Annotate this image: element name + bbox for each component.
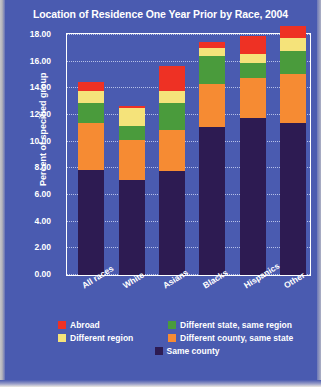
legend-item-different-state-same-region: Different state, same region [168, 320, 314, 330]
legend-row: Abroad Different state, same region [58, 320, 316, 330]
y-tick-label: 2.00 [3, 242, 51, 252]
legend-swatch-abroad [58, 321, 66, 329]
y-tick-label: 6.00 [3, 189, 51, 199]
chart-title: Location of Residence One Year Prior by … [0, 8, 321, 20]
bar-segment-same-county [119, 180, 145, 275]
bar-segment-abroad [78, 82, 104, 91]
bar-segment-different-region [159, 91, 185, 103]
bar-segment-different-state-same-region [280, 51, 306, 74]
bar-segment-different-region [119, 108, 145, 125]
bar-segment-different-county-same-state [199, 84, 225, 127]
bar-segment-same-county [280, 123, 306, 275]
legend-row: Same county [58, 346, 316, 356]
legend-swatch-different-state-same-region [168, 321, 176, 329]
bar-segment-same-county [240, 118, 266, 275]
bar-segment-abroad [199, 42, 225, 49]
bar-segment-abroad [119, 106, 145, 109]
chart-legend: Abroad Different state, same region Diff… [58, 320, 316, 356]
bars-layer [67, 34, 310, 275]
bar-other[interactable] [280, 26, 306, 275]
page-edge-right [317, 0, 321, 387]
y-axis-label: Percent of specified group [38, 72, 48, 186]
bar-hispanics[interactable] [240, 36, 266, 275]
bar-white[interactable] [119, 106, 145, 275]
bar-blacks[interactable] [199, 42, 225, 275]
plot-area: 0.002.004.006.008.0010.0012.0014.0016.00… [66, 33, 311, 276]
legend-label-different-county-same-state: Different county, same state [180, 333, 293, 343]
bar-segment-different-county-same-state [159, 130, 185, 171]
y-tick-label: 4.00 [3, 216, 51, 226]
y-tick-label: 18.00 [3, 29, 51, 39]
y-tick-label: 0.00 [3, 269, 51, 279]
legend-label-abroad: Abroad [70, 320, 100, 330]
legend-label-different-region: Different region [70, 333, 133, 343]
bar-all-races[interactable] [78, 82, 104, 275]
legend-item-same-county: Same county [155, 346, 220, 356]
bar-segment-abroad [240, 36, 266, 53]
legend-item-different-county-same-state: Different county, same state [168, 333, 314, 343]
bar-segment-different-state-same-region [199, 56, 225, 84]
bar-segment-different-state-same-region [240, 63, 266, 78]
bar-segment-different-county-same-state [119, 140, 145, 180]
bar-segment-abroad [159, 66, 185, 91]
bar-asians[interactable] [159, 66, 185, 275]
bar-segment-different-region [240, 54, 266, 63]
y-tick-label: 16.00 [3, 56, 51, 66]
bar-segment-different-state-same-region [119, 126, 145, 141]
legend-label-different-state-same-region: Different state, same region [180, 320, 292, 330]
bar-segment-same-county [199, 127, 225, 275]
legend-item-abroad: Abroad [58, 320, 168, 330]
legend-label-same-county: Same county [167, 346, 220, 356]
page-edge-bottom [0, 380, 321, 387]
bar-segment-different-region [199, 48, 225, 56]
legend-row: Different region Different county, same … [58, 333, 316, 343]
legend-swatch-different-region [58, 334, 66, 342]
bar-segment-different-state-same-region [78, 103, 104, 123]
bar-segment-different-county-same-state [280, 74, 306, 123]
bar-segment-different-state-same-region [159, 103, 185, 130]
legend-swatch-same-county [155, 347, 163, 355]
bar-segment-same-county [78, 170, 104, 275]
bar-segment-different-county-same-state [240, 78, 266, 118]
bar-segment-different-county-same-state [78, 123, 104, 170]
legend-item-different-region: Different region [58, 333, 168, 343]
bar-segment-same-county [159, 171, 185, 275]
legend-swatch-different-county-same-state [168, 334, 176, 342]
bar-segment-different-region [78, 91, 104, 103]
bar-segment-abroad [280, 26, 306, 38]
plot-inner [67, 34, 310, 275]
bar-segment-different-region [280, 38, 306, 51]
